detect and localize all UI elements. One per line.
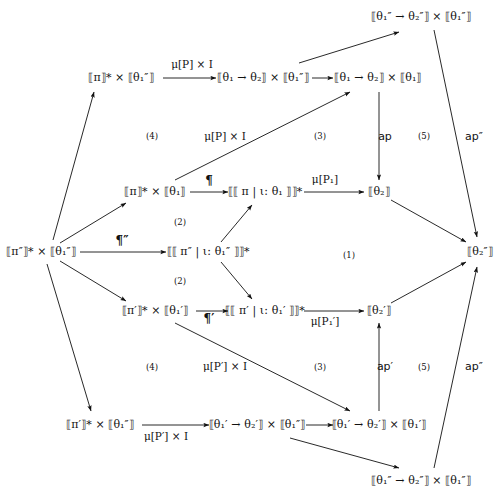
region-label-region-3-top: (3) xyxy=(314,131,326,141)
arrow-n_r1_c-to-n_top_right xyxy=(299,32,399,63)
node-n-r4-b: ⟦⟦ π′ | ι: θ₁′ ⟧⟧* xyxy=(225,305,305,318)
edge-label-lbl-ap-pr: ap′ xyxy=(377,361,393,373)
node-n-r5-c: ⟦θ₁′ → θ₂′⟧ × ⟦θ₁′⟧ xyxy=(332,419,427,432)
node-n-mid: ⟦⟦ π″ | ι: θ₁″ ⟧⟧* xyxy=(167,246,250,259)
region-label-region-3-bot: (3) xyxy=(314,362,326,372)
node-n-r5-b: ⟦θ₁′ → θ₂′⟧ × ⟦θ₁″⟧ xyxy=(209,419,306,432)
arrow-n_left-to-n_r5_a xyxy=(47,264,91,411)
edge-label-lbl-muP-I-top: μ[P] × I xyxy=(171,59,213,71)
node-n-r1-b: ⟦θ₁ → θ₂⟧ × ⟦θ₁″⟧ xyxy=(217,72,308,85)
node-n-r4-a: ⟦π′⟧* × ⟦θ₁′⟧ xyxy=(122,305,188,318)
edge-label-lbl-pilcrow-pr: ¶′ xyxy=(204,313,215,326)
edge-label-lbl-muP1: μ[P₁] xyxy=(312,174,338,186)
edge-label-lbl-muPpr-I-bot: μ[P′] × I xyxy=(144,431,188,443)
edge-label-lbl-ap: ap xyxy=(378,131,392,143)
commutative-diagram: ⟦θ₁″ → θ₂″⟧ × ⟦θ₁″⟧⟦π⟧* × ⟦θ₁″⟧⟦θ₁ → θ₂⟧… xyxy=(0,0,503,499)
node-n-r2-b: ⟦⟦ π | ι: θ₁ ⟧⟧* xyxy=(228,186,303,199)
arrow-n_r4_c-to-n_right xyxy=(391,262,466,303)
arrow-n_mid-to-n_r2_b xyxy=(221,205,252,242)
arrow-n_r5_b-to-n_bot_right xyxy=(290,438,399,468)
node-n-bot-right: ⟦θ₁″ → θ₂″⟧ × ⟦θ₁″⟧ xyxy=(371,475,471,488)
node-n-right: ⟦θ₂″⟧ xyxy=(467,246,493,259)
edge-label-lbl-muPpr-I-mid: μ[P′] × I xyxy=(203,361,247,373)
node-n-r4-c: ⟦θ₂′⟧ xyxy=(367,305,391,318)
region-label-region-5-bot: (5) xyxy=(418,362,430,372)
region-label-region-2-bot: (2) xyxy=(174,276,186,286)
region-label-region-4-bot: (4) xyxy=(146,362,158,372)
node-n-r5-a: ⟦π′⟧* × ⟦θ₁″⟧ xyxy=(66,419,134,432)
arrow-n_left-to-n_r4_a xyxy=(60,261,126,301)
node-n-r2-c: ⟦θ₂⟧ xyxy=(368,186,389,199)
node-n-r1-c: ⟦θ₁ → θ₂⟧ × ⟦θ₁⟧ xyxy=(334,72,421,85)
arrow-n_mid-to-n_r4_b xyxy=(221,262,252,299)
arrow-group xyxy=(47,30,477,468)
edge-label-lbl-pilcrow-dbl: ¶″ xyxy=(116,235,129,248)
edge-label-lbl-muP-I-mid: μ[P] × I xyxy=(204,131,246,143)
edge-label-lbl-ap-dbl-top: ap″ xyxy=(465,131,483,143)
node-n-r2-a: ⟦π⟧* × ⟦θ₁⟧ xyxy=(124,186,185,199)
node-n-left: ⟦π″⟧* × ⟦θ₁″⟧ xyxy=(6,246,76,259)
edge-label-lbl-ap-dbl-bot: ap″ xyxy=(465,361,483,373)
arrow-n_r2_c-to-n_right xyxy=(391,200,466,242)
region-label-region-4-top: (4) xyxy=(146,131,158,141)
region-label-region-5-top: (5) xyxy=(418,131,430,141)
region-label-region-1: (1) xyxy=(343,250,355,260)
edge-label-lbl-muP1-pr: μ[P₁′] xyxy=(311,316,340,328)
node-n-r1-a: ⟦π⟧* × ⟦θ₁″⟧ xyxy=(88,72,153,85)
region-label-region-2-top: (2) xyxy=(174,217,186,227)
node-n-top-right: ⟦θ₁″ → θ₂″⟧ × ⟦θ₁″⟧ xyxy=(371,11,471,24)
edge-label-lbl-pilcrow: ¶ xyxy=(205,175,213,188)
arrow-n_left-to-n_r1_a xyxy=(53,92,94,240)
